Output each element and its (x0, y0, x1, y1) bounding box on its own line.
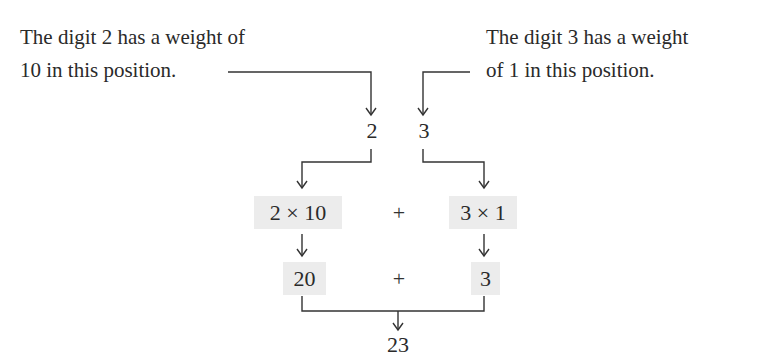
plus-operator-2: + (386, 262, 412, 295)
product-3: 3 (471, 262, 500, 295)
digit-2: 2 (361, 116, 383, 146)
product-20: 20 (283, 262, 326, 295)
term-2x10: 2 × 10 (254, 196, 342, 229)
result-23: 23 (380, 330, 416, 360)
connector-lines (0, 0, 757, 362)
term-3x1: 3 × 1 (449, 196, 517, 229)
plus-operator: + (386, 196, 412, 229)
digit-3: 3 (413, 116, 435, 146)
